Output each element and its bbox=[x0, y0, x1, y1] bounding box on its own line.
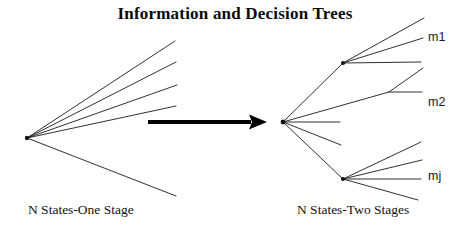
one-stage-branch-2 bbox=[27, 62, 176, 138]
two-stage-root-node bbox=[281, 120, 286, 125]
two-stage-tree bbox=[281, 18, 424, 200]
caption-one-stage: N States-One Stage bbox=[28, 202, 134, 218]
two-stage-upper-leaf-branches bbox=[343, 18, 424, 63]
two-stage-first-branch-5 bbox=[283, 122, 343, 179]
two-stage-lower-leaf-1 bbox=[343, 142, 421, 179]
decision-tree-diagram bbox=[0, 0, 470, 233]
figure-page: Information and Decision Trees m1 m2 mj … bbox=[0, 0, 470, 233]
one-stage-branch-5 bbox=[27, 138, 176, 196]
two-stage-lower-leaf-2 bbox=[343, 160, 422, 179]
two-stage-upper-leaf-2 bbox=[343, 38, 423, 63]
two-stage-upper-leaf-1 bbox=[343, 18, 424, 63]
two-stage-first-branch-4 bbox=[283, 122, 341, 145]
two-stage-first-branch-2 bbox=[283, 92, 389, 122]
two-stage-middle-leaf-1 bbox=[389, 68, 423, 92]
two-stage-lower-leaf-branches bbox=[343, 142, 422, 200]
two-stage-first-branches bbox=[283, 63, 389, 179]
one-stage-root-node bbox=[25, 136, 29, 140]
transform-arrow bbox=[148, 115, 267, 130]
one-stage-branches bbox=[27, 41, 177, 196]
two-stage-lower-node bbox=[341, 177, 345, 181]
leaf-label-mj: mj bbox=[428, 169, 441, 183]
caption-two-stages: N States-Two Stages bbox=[297, 202, 409, 218]
two-stage-upper-node bbox=[341, 61, 345, 65]
one-stage-branch-3 bbox=[27, 85, 177, 138]
one-stage-tree bbox=[25, 41, 177, 196]
two-stage-lower-leaf-4 bbox=[343, 179, 418, 200]
leaf-label-m2: m2 bbox=[428, 95, 445, 109]
two-stage-upper-leaf-3 bbox=[343, 62, 421, 63]
leaf-label-m1: m1 bbox=[428, 30, 445, 44]
two-stage-middle-leaf-branches bbox=[389, 68, 423, 92]
arrow-head-icon bbox=[249, 115, 267, 130]
